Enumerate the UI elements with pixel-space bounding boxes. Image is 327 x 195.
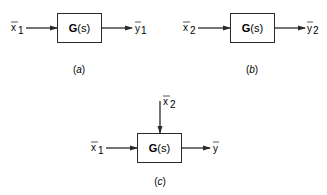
input-subscript: 2 [170,99,176,110]
input-x2-label: x 2 [183,22,196,36]
block-label: G(s) [69,22,90,34]
panel-caption: (a) [73,64,85,75]
output-subscript: 1 [141,25,147,36]
panel-caption: (b) [246,64,258,75]
output-subscript: 2 [313,25,319,36]
block-diagram: x 1 G(s) y 1 (a) x 2 G(s) y 2 (b) [0,0,327,195]
block-label: G(s) [242,22,263,34]
input-symbol: x [91,142,96,153]
input-symbol: x [163,96,168,107]
input-x2-top-label: x 2 [163,96,176,110]
output-symbol: y [307,23,312,34]
output-y1-label: y 1 [135,22,147,36]
panel-b: x 2 G(s) y 2 (b) [183,14,319,76]
input-subscript: 1 [98,145,104,156]
panel-c: x 2 x 1 G(s) y (c) [91,96,219,187]
output-y-label: y [213,142,219,154]
panel-caption: (c) [154,176,166,187]
output-y2-label: y 2 [307,22,319,36]
panel-a: x 1 G(s) y 1 (a) [11,14,147,76]
input-subscript: 2 [190,25,196,36]
input-symbol: x [183,22,188,33]
output-symbol: y [135,23,140,34]
input-x1-label: x 1 [11,22,24,36]
input-x1-label: x 1 [91,142,104,156]
input-symbol: x [11,22,16,33]
output-symbol: y [213,143,218,154]
input-subscript: 1 [18,25,24,36]
block-label: G(s) [149,142,170,154]
